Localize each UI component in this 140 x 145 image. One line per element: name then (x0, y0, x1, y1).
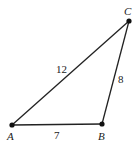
vertex-b-point (99, 121, 104, 126)
vertex-a-point (9, 122, 14, 127)
side-ab (12, 124, 102, 125)
vertex-c-point (126, 18, 131, 23)
vertex-c-label: C (124, 5, 132, 17)
side-ab-length: 7 (54, 129, 60, 141)
side-ac (12, 21, 129, 125)
side-ac-length: 12 (56, 63, 67, 75)
side-bc (102, 21, 129, 124)
vertex-a-label: A (6, 130, 14, 142)
vertex-b-label: B (98, 130, 105, 142)
triangle-diagram: A B C 7 8 12 (0, 0, 140, 145)
side-bc-length: 8 (118, 73, 124, 85)
